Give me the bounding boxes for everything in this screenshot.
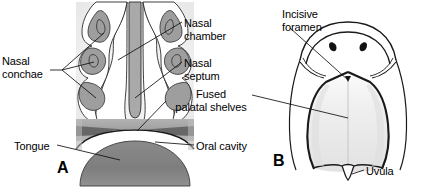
label-nasal-septum-line1: Nasal (184, 57, 212, 69)
label-nasal-chamber-line2: chamber (184, 30, 226, 42)
label-nasal-conchae-line2: conchae (2, 68, 43, 80)
label-oral-cavity: Oral cavity (196, 140, 247, 153)
uvula-shape (342, 165, 354, 181)
left-middle-concha (81, 48, 106, 74)
label-nasal-chamber-line1: Nasal (184, 17, 212, 29)
label-nasal-septum-line2: septum (184, 70, 219, 82)
anatomy-figure: Nasalconchae Nasalchamber Nasalseptum Fu… (0, 0, 428, 190)
right-nostril (360, 42, 368, 51)
label-nasal-conchae-line1: Nasal (2, 55, 30, 67)
label-nasal-conchae: Nasalconchae (2, 55, 43, 80)
tissue-left-shading (76, 119, 82, 150)
label-incisive-foramen: Incisiveforamen (282, 8, 322, 33)
left-cheek-contour (289, 60, 300, 170)
left-nostril (329, 42, 337, 51)
panel-letter-a: A (57, 159, 69, 177)
label-incisive-foramen-line1: Incisive (282, 8, 318, 20)
label-fused-palatal-shelves-line2: palatal shelves (175, 101, 246, 113)
nasal-septum-shape (129, 2, 141, 118)
right-cheek-contour (396, 60, 407, 170)
panel-letter-b: B (273, 152, 285, 170)
label-fused-palatal-shelves: Fusedpalatal shelves (168, 88, 254, 113)
upper-lip-arch (306, 32, 390, 64)
leader-incisive-foramen (290, 28, 348, 80)
label-incisive-foramen-line2: foramen (282, 21, 322, 33)
label-uvula: Uvula (366, 165, 394, 178)
label-nasal-septum: Nasalseptum (184, 57, 219, 82)
label-tongue: Tongue (14, 140, 50, 153)
label-fused-palatal-shelves-line1: Fused (196, 88, 226, 100)
label-nasal-chamber: Nasalchamber (184, 17, 226, 42)
